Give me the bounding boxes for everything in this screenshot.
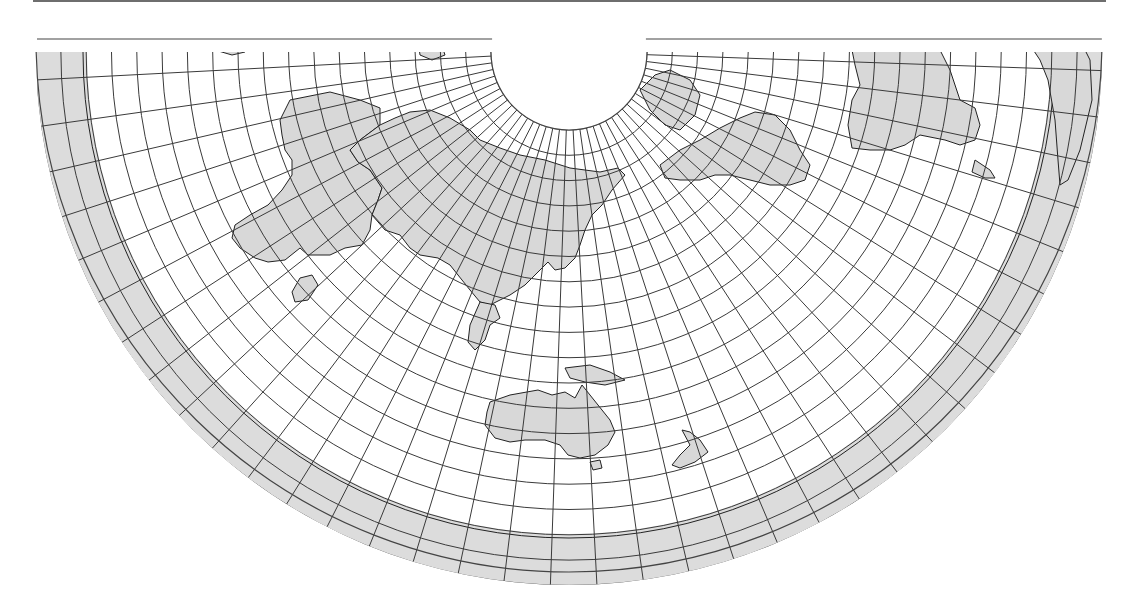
- longitude-line: [600, 124, 778, 543]
- greenland: [640, 70, 700, 130]
- iceland-area: [200, 40, 250, 55]
- world-map: [0, 0, 1136, 614]
- land-layer: [36, 0, 1102, 585]
- longitude-line: [580, 129, 643, 580]
- longitude-line: [593, 126, 734, 559]
- map-fan: [36, 0, 1103, 585]
- tasmania: [590, 460, 602, 470]
- africa: [232, 92, 382, 262]
- south-america: [848, 40, 980, 150]
- australia: [485, 385, 615, 458]
- indochina: [468, 302, 500, 350]
- longitude-line: [36, 33, 491, 49]
- europe-asia: [350, 110, 625, 305]
